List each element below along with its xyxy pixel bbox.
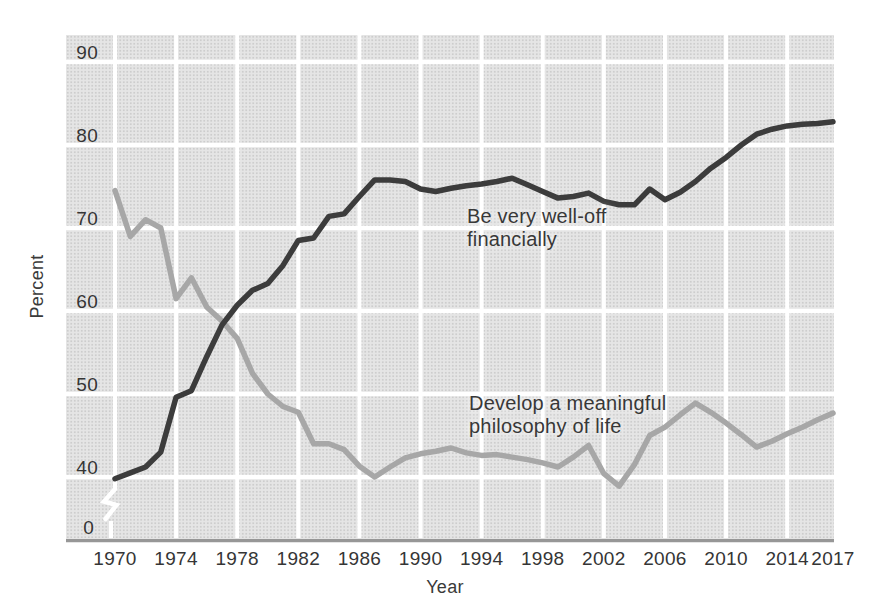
x-tick-label-2017: 2017 [798, 549, 868, 569]
x-tick-label-1994: 1994 [447, 549, 517, 569]
x-tick-label-1978: 1978 [202, 549, 272, 569]
series-label-philosophy: Develop a meaningful philosophy of life [469, 392, 666, 438]
x-tick-label-2006: 2006 [630, 549, 700, 569]
series-label-well-off-line1: Be very well-off [467, 205, 607, 228]
y-tick-label-50: 50 [57, 375, 98, 395]
series-label-well-off: Be very well-off financially [467, 205, 607, 251]
x-tick-label-1974: 1974 [141, 549, 211, 569]
y-tick-label-40: 40 [57, 458, 98, 478]
x-tick-label-1970: 1970 [80, 549, 150, 569]
y-tick-label-90: 90 [57, 43, 98, 63]
y-tick-label-80: 80 [57, 126, 98, 146]
y-tick-label-0: 0 [53, 518, 94, 538]
x-axis-title: Year [395, 577, 495, 598]
series-label-philosophy-line1: Develop a meaningful [469, 392, 666, 415]
y-tick-label-60: 60 [57, 292, 98, 312]
y-axis-break-icon [104, 489, 117, 519]
x-tick-label-1998: 1998 [508, 549, 578, 569]
x-tick-label-1986: 1986 [324, 549, 394, 569]
series-label-philosophy-line2: philosophy of life [469, 415, 666, 438]
line-chart-figure: 9080706050400197019741978198219861990199… [0, 0, 886, 611]
x-tick-label-2002: 2002 [569, 549, 639, 569]
chart-canvas [0, 0, 886, 611]
x-tick-label-1990: 1990 [386, 549, 456, 569]
x-tick-label-2010: 2010 [691, 549, 761, 569]
x-tick-label-1982: 1982 [263, 549, 333, 569]
y-tick-label-70: 70 [57, 209, 98, 229]
series-label-well-off-line2: financially [467, 228, 607, 251]
y-axis-title: Percent [27, 227, 48, 347]
